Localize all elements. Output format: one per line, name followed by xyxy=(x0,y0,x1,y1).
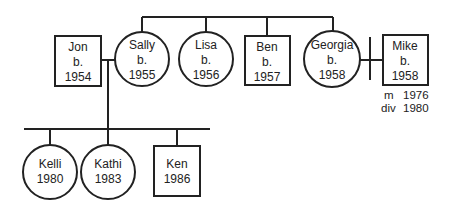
genogram-diagram: Jon b. 1954 Sally b. 1955 Lisa b. 1956 B… xyxy=(0,0,451,214)
person-kelli: Kelli 1980 xyxy=(23,145,77,199)
svg-text:Ben: Ben xyxy=(256,40,277,54)
svg-text:Mike: Mike xyxy=(392,39,418,53)
svg-text:1958: 1958 xyxy=(392,69,419,83)
svg-text:Ken: Ken xyxy=(166,157,187,171)
svg-text:Sally: Sally xyxy=(129,38,155,52)
svg-text:1957: 1957 xyxy=(254,70,281,84)
married-year: 1976 xyxy=(403,89,429,101)
divorced-year: 1980 xyxy=(403,102,429,114)
svg-text:1955: 1955 xyxy=(129,68,156,82)
svg-text:1980: 1980 xyxy=(37,172,64,186)
svg-text:b.: b. xyxy=(400,54,410,68)
svg-text:1983: 1983 xyxy=(95,172,122,186)
divorced-label: div xyxy=(381,102,396,114)
svg-text:Kelli: Kelli xyxy=(39,157,62,171)
person-ken: Ken 1986 xyxy=(154,146,200,196)
svg-text:Lisa: Lisa xyxy=(195,38,217,52)
sibling-connector xyxy=(142,17,333,36)
svg-text:1986: 1986 xyxy=(164,172,191,186)
svg-text:b.: b. xyxy=(327,53,337,67)
svg-text:Kathi: Kathi xyxy=(94,157,121,171)
person-sally: Sally b. 1955 xyxy=(115,32,169,86)
person-georgia: Georgia b. 1958 xyxy=(304,31,360,87)
svg-text:Jon: Jon xyxy=(68,40,87,54)
person-mike: Mike b. 1958 xyxy=(383,35,428,85)
svg-text:b.: b. xyxy=(201,53,211,67)
svg-text:1954: 1954 xyxy=(65,70,92,84)
svg-text:1956: 1956 xyxy=(193,68,220,82)
children-connector xyxy=(24,129,210,146)
marriage-notes: m 1976 div 1980 xyxy=(381,89,429,114)
svg-text:1958: 1958 xyxy=(319,68,346,82)
marriage-line-jon-sally xyxy=(101,60,115,129)
svg-text:Georgia: Georgia xyxy=(311,38,354,52)
person-ben: Ben b. 1957 xyxy=(245,36,290,85)
married-label: m xyxy=(384,89,394,101)
person-lisa: Lisa b. 1956 xyxy=(179,32,233,86)
divorce-line-georgia-mike xyxy=(360,37,383,80)
svg-text:b.: b. xyxy=(137,53,147,67)
person-jon: Jon b. 1954 xyxy=(55,36,101,86)
svg-text:b.: b. xyxy=(73,55,83,69)
person-kathi: Kathi 1983 xyxy=(81,145,135,199)
svg-text:b.: b. xyxy=(262,55,272,69)
